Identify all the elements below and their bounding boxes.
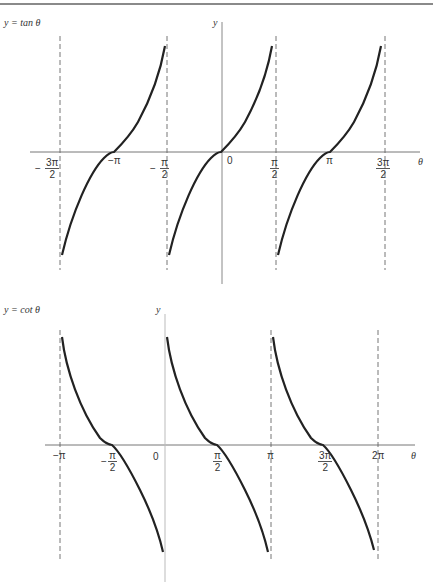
- tan-tick-3pi-2: 3π 2: [376, 157, 390, 180]
- cot-tick-zero: 0: [153, 451, 159, 462]
- cot-tick-neg-pi: −π: [53, 450, 66, 461]
- cot-tick-2pi: 2π: [372, 450, 384, 461]
- tan-tick-neg-pi-2-sign: −: [150, 163, 156, 174]
- tan-tick-pi-2: π 2: [270, 157, 279, 180]
- plots-canvas: [0, 0, 433, 582]
- cot-tick-neg-pi-2: π 2: [108, 450, 117, 473]
- cot-title: y = cot θ: [4, 304, 40, 315]
- tan-tick-neg-3pi-2-sign: −: [35, 163, 41, 174]
- tan-tick-pi: π: [326, 155, 333, 166]
- cot-tick-pi-2: π 2: [213, 450, 222, 473]
- cot-y-axis-label: y: [156, 304, 160, 315]
- cot-tick-3pi-2: 3π 2: [318, 450, 332, 473]
- tan-tick-zero: 0: [227, 155, 233, 166]
- cot-x-axis-label: θ: [411, 450, 416, 461]
- cot-tick-pi: π: [267, 450, 274, 461]
- cot-tick-neg-pi-2-sign: −: [101, 456, 107, 467]
- tan-tick-neg-3pi-2: 3π 2: [45, 157, 59, 180]
- tan-tick-neg-pi: −π: [108, 155, 121, 166]
- tan-tick-neg-pi-2: π 2: [160, 157, 169, 180]
